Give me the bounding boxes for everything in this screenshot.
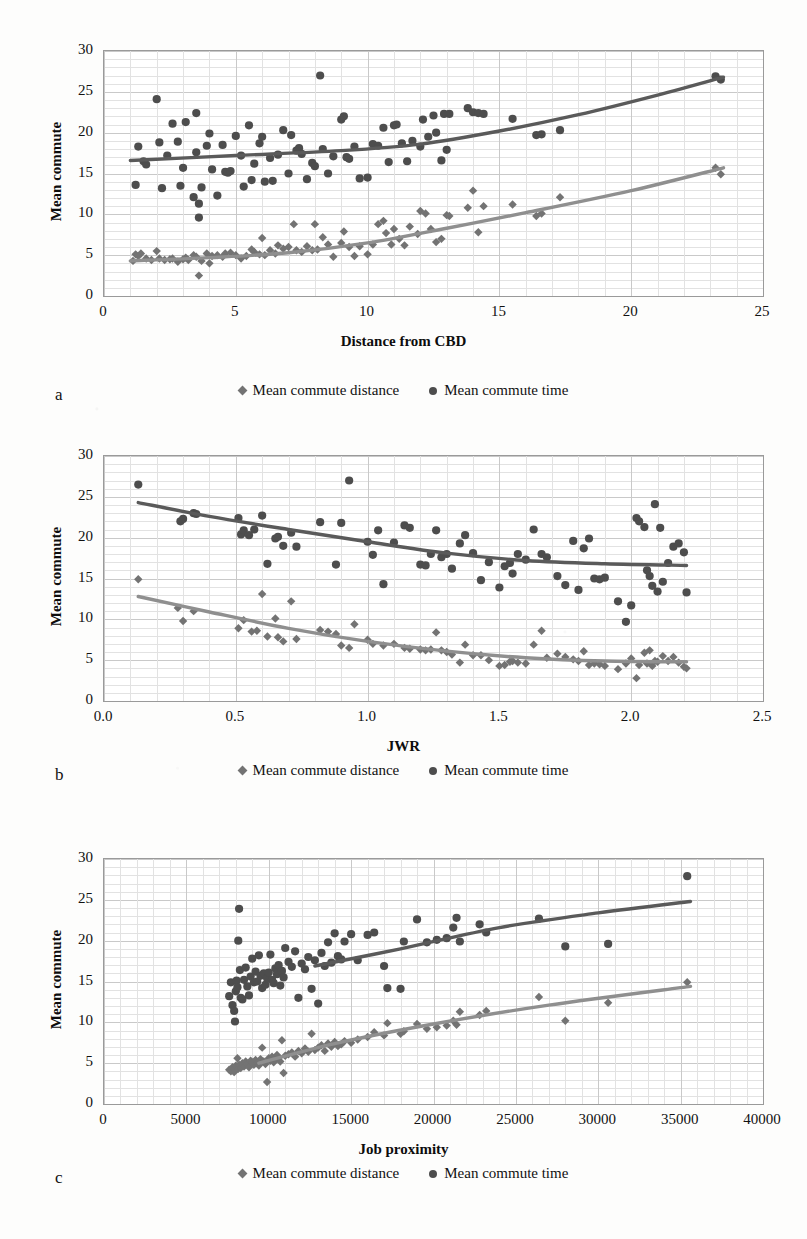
data-point-circle [234, 937, 242, 945]
data-point-circle [233, 983, 241, 991]
y-tick-label: 30 [59, 41, 93, 58]
data-point-circle [659, 578, 667, 586]
data-point-circle [332, 561, 340, 569]
x-tick-label: 5000 [150, 1111, 220, 1128]
x-tick-label: 15000 [315, 1111, 385, 1128]
data-point-circle [155, 138, 163, 146]
plot-area-a [103, 50, 764, 297]
data-point-circle [153, 95, 161, 103]
y-axis-title-c: Mean commute [48, 899, 65, 1059]
series-layer-a [104, 51, 763, 296]
gridline-h [104, 1104, 763, 1105]
data-point-diamond [345, 644, 353, 652]
data-point-circle [168, 120, 176, 128]
data-point-circle [324, 938, 332, 946]
data-point-circle [301, 965, 309, 973]
data-point-circle [561, 581, 569, 589]
plot-area-b [103, 455, 764, 702]
data-point-circle [364, 173, 372, 181]
data-point-diamond [485, 656, 493, 664]
data-point-circle [284, 169, 292, 177]
legend-label: Mean commute distance [253, 1165, 400, 1182]
data-point-circle [179, 515, 187, 523]
legend-item[interactable]: Mean commute distance [239, 1165, 400, 1182]
x-axis-title-b: JWR [0, 738, 807, 755]
gridline-v [763, 456, 764, 701]
chart-panel-c: 0510152025300500010000150002000025000300… [0, 820, 807, 1239]
data-point-diamond [553, 649, 561, 657]
x-tick-label: 10 [332, 303, 402, 320]
data-point-circle [640, 523, 648, 531]
data-point-circle [456, 937, 464, 945]
x-tick-label: 40000 [727, 1111, 797, 1128]
data-point-circle [263, 560, 271, 568]
y-axis-title-b: Mean commute [48, 496, 65, 656]
trendline-distance [138, 596, 686, 661]
x-tick-label: 20000 [398, 1111, 468, 1128]
circle-marker-icon [429, 1170, 437, 1178]
data-point-circle [429, 111, 437, 119]
data-point-circle [134, 142, 142, 150]
data-point-circle [561, 942, 569, 950]
legend-item[interactable]: Mean commute distance [239, 762, 400, 779]
data-point-circle [190, 193, 198, 201]
data-point-circle [314, 999, 322, 1007]
series-layer-b [104, 456, 763, 701]
data-point-circle [179, 164, 187, 172]
data-point-circle [452, 914, 460, 922]
y-tick-label: 0 [59, 286, 93, 303]
data-point-circle [261, 178, 269, 186]
data-point-circle [379, 580, 387, 588]
data-point-circle [317, 949, 325, 957]
data-point-circle [132, 181, 140, 189]
data-point-diamond [529, 640, 537, 648]
data-point-circle [400, 937, 408, 945]
data-point-circle [449, 924, 457, 932]
data-point-circle [158, 184, 166, 192]
x-axis-title-c: Job proximity [0, 1141, 807, 1158]
legend-item[interactable]: Mean commute time [429, 382, 568, 399]
y-tick-label: 30 [59, 849, 93, 866]
data-point-circle [508, 570, 516, 578]
data-point-circle [477, 576, 485, 584]
data-point-circle [245, 991, 253, 999]
chart-panel-a: 0510152025300510152025Distance from CBDM… [0, 0, 807, 420]
series-time-c [225, 872, 691, 1026]
x-tick-label: 25000 [480, 1111, 550, 1128]
legend-label: Mean commute distance [253, 762, 400, 779]
legend-c: Mean commute distanceMean commute time [0, 1165, 807, 1182]
x-tick-label: 0.0 [68, 708, 138, 725]
data-point-diamond [329, 253, 337, 261]
data-point-diamond [311, 220, 319, 228]
data-point-diamond [461, 640, 469, 648]
legend-item[interactable]: Mean commute time [429, 762, 568, 779]
data-point-circle [461, 531, 469, 539]
data-point-circle [683, 872, 691, 880]
legend-item[interactable]: Mean commute distance [239, 382, 400, 399]
legend-label: Mean commute distance [253, 382, 400, 399]
data-point-diamond [258, 1043, 266, 1051]
legend-item[interactable]: Mean commute time [429, 1165, 568, 1182]
data-point-circle [432, 526, 440, 534]
data-point-diamond [604, 999, 612, 1007]
x-tick-label: 30000 [562, 1111, 632, 1128]
data-point-circle [653, 587, 661, 595]
data-point-diamond [234, 624, 242, 632]
data-point-circle [424, 133, 432, 141]
data-point-diamond [432, 628, 440, 636]
data-point-circle [291, 947, 299, 955]
data-point-circle [248, 176, 256, 184]
circle-marker-icon [429, 767, 437, 775]
data-point-circle [379, 124, 387, 132]
data-point-circle [219, 141, 227, 149]
data-point-circle [258, 133, 266, 141]
data-point-diamond [508, 200, 516, 208]
data-point-diamond [400, 241, 408, 249]
data-point-circle [142, 160, 150, 168]
data-point-circle [614, 597, 622, 605]
data-point-diamond [153, 247, 161, 255]
data-point-circle [274, 533, 282, 541]
data-point-circle [445, 110, 453, 118]
data-point-circle [250, 160, 258, 168]
data-point-diamond [456, 1008, 464, 1016]
